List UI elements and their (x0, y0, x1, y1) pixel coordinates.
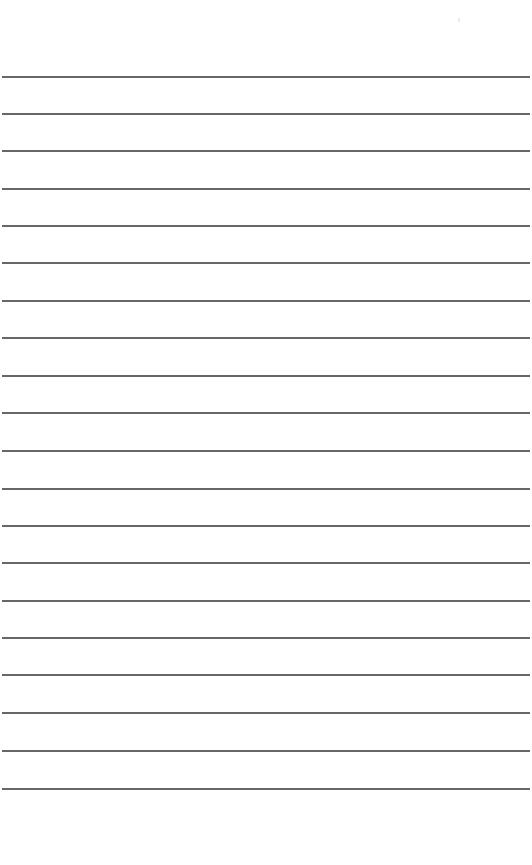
ruled-line (2, 300, 530, 302)
ruled-line (2, 76, 530, 78)
ruled-line (2, 674, 530, 676)
ruled-line (2, 375, 530, 377)
ruled-line (2, 525, 530, 527)
ruled-line (2, 412, 530, 414)
ruled-line (2, 637, 530, 639)
ruled-line (2, 113, 530, 115)
ruled-line (2, 750, 530, 752)
lined-paper-sheet (0, 0, 532, 865)
ruled-line (2, 225, 530, 227)
ruled-line (2, 488, 530, 490)
ruled-line (2, 188, 530, 190)
ruled-line (2, 712, 530, 714)
ruled-line (2, 788, 530, 790)
ruled-line (2, 262, 530, 264)
ruled-line (2, 337, 530, 339)
ruled-line (2, 450, 530, 452)
ruled-line (2, 600, 530, 602)
ruled-line (2, 150, 530, 152)
ruled-line (2, 562, 530, 564)
scan-speck (458, 18, 460, 22)
